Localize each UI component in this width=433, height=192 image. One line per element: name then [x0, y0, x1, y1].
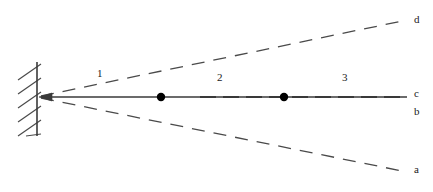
ray-label-c: c: [414, 88, 419, 99]
region-label-2: 2: [217, 72, 223, 83]
region-label-1: 1: [97, 68, 103, 79]
ray-diagram-figure: 1 2 3 d c b a: [0, 0, 433, 192]
ray-label-d: d: [414, 14, 420, 25]
ray-d-line: [41, 20, 407, 96]
arrowhead-icon: [39, 93, 52, 101]
ray-label-b: b: [414, 106, 420, 117]
diagram-canvas: [0, 0, 433, 192]
region-label-3: 3: [342, 72, 348, 83]
node-dot: [157, 93, 165, 101]
ray-a-line: [41, 98, 407, 172]
ray-label-a: a: [414, 164, 419, 175]
node-dot: [280, 93, 288, 101]
